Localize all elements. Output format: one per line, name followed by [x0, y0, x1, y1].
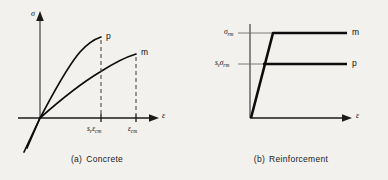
tick-label-prefix-sub: ε: [90, 128, 92, 134]
concrete-caption-tag: (a): [71, 154, 82, 164]
concrete-tick-label-se-ecm: sε εcm: [87, 124, 101, 133]
concrete-x-axis-label: ε: [162, 111, 165, 120]
reinforcement-curve-label-m: m: [352, 27, 359, 37]
tick-label-sub: cm: [131, 128, 137, 134]
concrete-plot-area: [0, 0, 194, 180]
chart-panel-reinforcement: ε m p σrm sεσrm (b)Reinforcement: [194, 0, 388, 180]
concrete-curve-p: [24, 37, 101, 152]
reinforcement-caption-text: Reinforcement: [269, 154, 328, 164]
concrete-caption: (a)Concrete: [0, 154, 194, 164]
reinforcement-x-axis: [250, 114, 352, 122]
value-label-sub: rm: [228, 31, 234, 37]
reinforcement-caption: (b)Reinforcement: [194, 154, 388, 164]
tick-label-sub: cm: [95, 128, 101, 134]
concrete-curve-label-m: m: [141, 47, 148, 57]
reinforcement-curve-m: [251, 33, 347, 118]
concrete-curve-m: [27, 54, 136, 148]
value-label-prefix-sub: ε: [218, 62, 220, 68]
concrete-tick-label-ecm: εcm: [128, 124, 137, 133]
reinforcement-curve-label-p: p: [352, 58, 357, 68]
concrete-y-axis-label: σ: [31, 9, 35, 18]
chart-panel-concrete: σ ε p m sε εcm εcm (a)Concrete: [0, 0, 194, 180]
reinforcement-caption-tag: (b): [254, 154, 265, 164]
concrete-caption-text: Concrete: [86, 154, 123, 164]
value-label-sub: rm: [223, 62, 229, 68]
reinforcement-x-axis-label: ε: [356, 111, 359, 120]
reinforcement-value-label-se-sigma-rm: sεσrm: [215, 58, 229, 67]
reinforcement-value-label-sigma-rm: σrm: [224, 27, 234, 36]
concrete-curve-label-p: p: [106, 31, 111, 41]
value-label-base: σ: [224, 27, 228, 36]
concrete-y-axis: [36, 11, 44, 118]
